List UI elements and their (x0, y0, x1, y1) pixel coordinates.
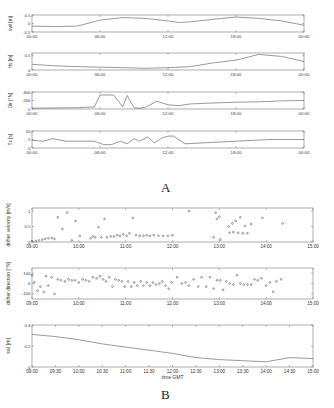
data-point (99, 275, 101, 277)
x-tick-label: 11:00 (120, 369, 132, 374)
data-point (92, 236, 94, 238)
x-tick-label: 12:00 (167, 301, 179, 306)
data-point (261, 277, 263, 279)
x-tick-label: 15:00 (307, 244, 319, 249)
data-point (153, 234, 155, 236)
data-point (126, 235, 128, 237)
subplot-5: 09:0010:0011:0012:0013:0014:0015:0010.50… (5, 203, 319, 249)
data-line (32, 136, 304, 145)
data-point (232, 284, 234, 286)
x-tick-label: 11:00 (120, 244, 132, 249)
x-tick-label: 00:00 (27, 111, 38, 116)
data-point (136, 285, 138, 287)
data-point (57, 216, 59, 218)
data-point (181, 283, 183, 285)
data-point (96, 277, 98, 279)
data-point (188, 285, 190, 287)
data-point (247, 284, 249, 286)
x-tick-label: 06:00 (95, 150, 106, 155)
y-tick-label: 0.5 (25, 13, 32, 18)
data-point (257, 280, 259, 282)
data-point (250, 223, 252, 225)
y-tick-label: 10 (26, 129, 31, 134)
y-tick-label: 0 (28, 281, 31, 286)
x-tick-label: 09:30 (50, 369, 62, 374)
y-axis-label: swl [m] (8, 16, 13, 31)
data-point (243, 284, 245, 286)
data-point (106, 236, 108, 238)
data-point (54, 293, 56, 295)
data-point (158, 235, 160, 237)
data-point (161, 281, 163, 283)
data-point (51, 276, 53, 278)
x-tick-label: 00:00 (299, 111, 310, 116)
data-point (127, 281, 129, 283)
data-point (143, 285, 145, 287)
data-point (215, 212, 217, 214)
data-point (219, 280, 221, 282)
figure-canvas: 00:0006:0012:0018:0000:000.50-0.5swl [m]… (0, 0, 334, 408)
x-tick-label: 10:00 (73, 369, 85, 374)
data-point (100, 236, 102, 238)
data-point (130, 286, 132, 288)
data-point (240, 283, 242, 285)
x-tick-label: 18:00 (231, 72, 242, 77)
data-point (124, 286, 126, 288)
data-point (51, 237, 53, 239)
y-tick-label: -0.5 (23, 30, 31, 35)
data-point (88, 281, 90, 283)
data-point (236, 274, 238, 276)
y-axis-label: Hs [m] (8, 55, 13, 69)
data-point (276, 281, 278, 283)
x-tick-label: 12:00 (163, 34, 174, 39)
data-point (229, 283, 231, 285)
data-point (74, 280, 76, 282)
y-tick-label: 0.2 (25, 344, 32, 349)
data-point (113, 236, 115, 238)
data-point (242, 232, 244, 234)
data-point (225, 281, 227, 283)
data-point (116, 234, 118, 236)
data-point (47, 237, 49, 239)
y-tick-label: -100 (22, 291, 31, 296)
data-point (110, 236, 112, 238)
x-tick-label: 00:00 (299, 34, 310, 39)
data-line (32, 54, 304, 68)
data-point (155, 284, 157, 286)
x-tick-label: 09:00 (26, 369, 38, 374)
data-point (75, 220, 77, 222)
x-tick-label: 00:00 (27, 34, 38, 39)
x-tick-label: 10:00 (73, 301, 85, 306)
y-tick-label: 0.5 (25, 224, 32, 229)
data-point (218, 216, 220, 218)
y-tick-label: 0.4 (25, 323, 32, 328)
data-point (129, 232, 131, 234)
x-tick-label: 14:00 (260, 244, 272, 249)
x-tick-label: 06:00 (95, 111, 106, 116)
data-point (235, 220, 237, 222)
data-point (158, 283, 160, 285)
data-point (68, 278, 70, 280)
y-tick-label: 0 (28, 21, 31, 26)
x-tick-label: 06:00 (95, 72, 106, 77)
data-line (32, 334, 313, 361)
data-point (172, 234, 174, 236)
data-point (112, 286, 114, 288)
data-point (102, 278, 104, 280)
data-point (41, 239, 43, 241)
data-point (240, 216, 242, 218)
data-point (60, 280, 62, 282)
x-tick-label: 12:30 (190, 369, 202, 374)
axes-frame (32, 92, 304, 109)
y-axis-label: Dir [°N] (8, 93, 13, 109)
x-tick-label: 00:00 (27, 150, 38, 155)
data-point (244, 225, 246, 227)
data-point (149, 285, 151, 287)
y-axis-label: drifter direction [°N] (5, 261, 11, 304)
data-point (222, 289, 224, 291)
data-point (193, 278, 195, 280)
data-point (232, 223, 234, 225)
data-point (38, 240, 40, 242)
data-point (121, 281, 123, 283)
data-point (47, 285, 49, 287)
